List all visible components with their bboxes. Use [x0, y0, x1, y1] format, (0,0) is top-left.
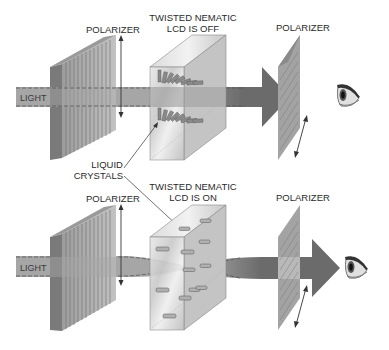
front-polarizer-label: POLARIZER [86, 193, 140, 204]
top-panel-lcd-off: LIGHT POLARIZER [16, 12, 360, 160]
lcd-on-label-line2: LCD IS ON [169, 192, 217, 203]
rear-polarizer-label: POLARIZER [276, 192, 330, 203]
light-label: LIGHT [20, 263, 47, 273]
lcd-on-label-line1: TWISTED NEMATIC [149, 181, 237, 192]
eye-icon [337, 84, 360, 106]
lcd-diagram: LIGHT POLARIZER [0, 0, 389, 350]
front-polarizer-label: POLARIZER [86, 24, 140, 35]
eye-icon [345, 256, 368, 278]
lcd-cell-on [150, 205, 226, 330]
lcd-off-label-line2: LCD IS OFF [167, 23, 219, 34]
lcd-off-label-line1: TWISTED NEMATIC [149, 12, 237, 23]
rear-polarizer-label: POLARIZER [276, 22, 330, 33]
crystals-label-line2: CRYSTALS [74, 170, 123, 181]
crystals-label-line1: LIQUID [91, 159, 123, 170]
bottom-panel-lcd-on: LIGHT POLARIZER [16, 181, 368, 331]
rear-polarizer [278, 35, 300, 160]
light-label: LIGHT [20, 93, 47, 103]
light-arrow [262, 239, 340, 297]
lcd-cell-off [150, 35, 226, 160]
rear-polarizer [278, 205, 300, 330]
front-polarizer [50, 205, 116, 331]
front-polarizer [50, 35, 116, 160]
